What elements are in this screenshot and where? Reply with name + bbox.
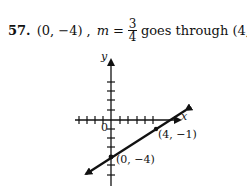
point-a-label: (4, −1) (158, 128, 197, 141)
x-axis-label: x (181, 110, 188, 123)
point-b-label: (0, −4) (116, 153, 155, 166)
y-axis-label: y (100, 50, 108, 63)
coordinate-graph: y x 0 (4, −1) (0, −4) (0, 0, 247, 191)
origin-label: 0 (101, 121, 108, 134)
point-b (109, 155, 114, 160)
